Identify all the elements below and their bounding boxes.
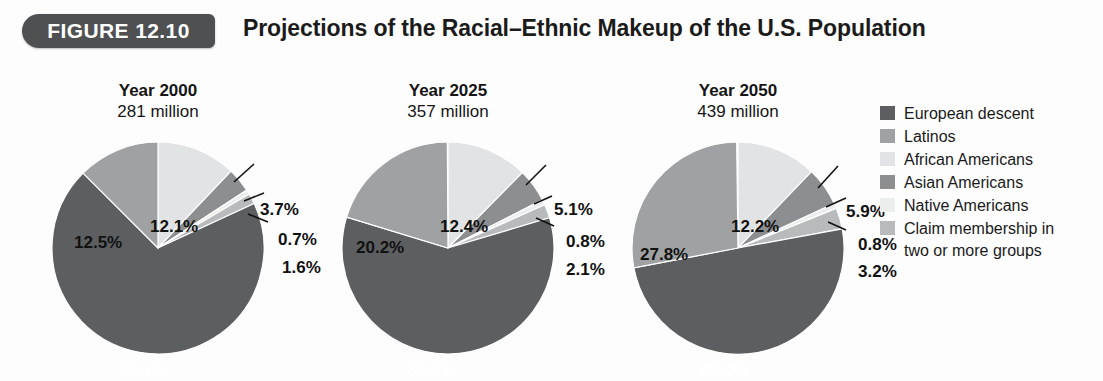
legend-label-line2: two or more groups bbox=[904, 240, 1054, 262]
figure-title: Projections of the Racial–Ethnic Makeup … bbox=[243, 15, 926, 42]
legend-item-native-americans[interactable]: Native Americans bbox=[880, 195, 1095, 218]
slice-value-label-latinos: 27.8% bbox=[640, 245, 688, 265]
legend-swatch-icon bbox=[880, 175, 895, 189]
slice-value-label-african-americans: 12.2% bbox=[731, 217, 779, 237]
slice-value-label-claim-membership-in-two-or-more-groups: 2.1% bbox=[566, 260, 605, 280]
pie-chart-year-2000: Year 2000281 million12.1%3.7%0.7%1.6%69.… bbox=[38, 80, 328, 381]
pie-chart-subtitle: 281 million bbox=[38, 101, 278, 122]
figure-number-badge: FIGURE 12.10 bbox=[22, 14, 215, 48]
legend-label: Native Americans bbox=[904, 197, 1029, 214]
slice-value-label-european-descent: 59.3% bbox=[408, 361, 456, 381]
legend-item-african-americans[interactable]: African Americans bbox=[880, 149, 1095, 172]
legend-item-european-descent[interactable]: European descent bbox=[880, 103, 1095, 126]
leader-line-1 bbox=[818, 166, 838, 188]
slice-value-label-latinos: 12.5% bbox=[74, 233, 122, 253]
leader-line-1 bbox=[526, 165, 546, 185]
legend-item-claim-membership-in[interactable]: Claim membership intwo or more groups bbox=[880, 218, 1095, 262]
figure-header: FIGURE 12.10 Projections of the Racial–E… bbox=[0, 14, 1103, 54]
legend-label: African Americans bbox=[904, 151, 1033, 168]
legend-swatch-icon bbox=[880, 152, 895, 166]
legend-swatch-icon bbox=[880, 221, 895, 235]
slice-value-label-european-descent: 49.9% bbox=[700, 361, 748, 381]
pie-chart-year-2050: Year 2050439 million12.2%5.9%0.8%3.2%49.… bbox=[618, 80, 908, 381]
slice-value-label-native-americans: 0.7% bbox=[278, 230, 317, 250]
legend-item-asian-americans[interactable]: Asian Americans bbox=[880, 172, 1095, 195]
slice-value-label-claim-membership-in-two-or-more-groups: 1.6% bbox=[282, 258, 321, 278]
legend-label: Latinos bbox=[904, 128, 956, 145]
legend-label: Claim membership in bbox=[904, 220, 1054, 237]
slice-value-label-african-americans: 12.1% bbox=[150, 217, 198, 237]
pie-chart-year-2025: Year 2025357 million12.4%5.1%0.8%2.1%59.… bbox=[328, 80, 618, 381]
slice-value-label-native-americans: 0.8% bbox=[566, 232, 605, 252]
slice-value-label-european-descent: 69.4% bbox=[118, 361, 166, 381]
pie-chart-title: Year 2000 bbox=[38, 80, 278, 101]
chart-legend: European descentLatinosAfrican Americans… bbox=[880, 103, 1095, 262]
slice-value-label-asian-americans: 5.1% bbox=[554, 200, 593, 220]
slice-value-label-african-americans: 12.4% bbox=[440, 217, 488, 237]
slice-value-label-asian-americans: 5.9% bbox=[846, 202, 885, 222]
legend-swatch-icon bbox=[880, 106, 895, 120]
legend-label: European descent bbox=[904, 105, 1034, 122]
pie-chart-title: Year 2050 bbox=[618, 80, 858, 101]
legend-label: Asian Americans bbox=[904, 174, 1023, 191]
slice-value-label-asian-americans: 3.7% bbox=[260, 200, 299, 220]
legend-swatch-icon bbox=[880, 129, 895, 143]
pie-chart-subtitle: 439 million bbox=[618, 101, 858, 122]
slice-value-label-claim-membership-in-two-or-more-groups: 3.2% bbox=[858, 262, 897, 282]
pie-chart-title: Year 2025 bbox=[328, 80, 568, 101]
leader-line-1 bbox=[234, 164, 254, 182]
legend-swatch-icon bbox=[880, 198, 895, 212]
figure-number-label: FIGURE 12.10 bbox=[22, 14, 215, 48]
pie-chart-subtitle: 357 million bbox=[328, 101, 568, 122]
legend-item-latinos[interactable]: Latinos bbox=[880, 126, 1095, 149]
slice-value-label-latinos: 20.2% bbox=[356, 238, 404, 258]
